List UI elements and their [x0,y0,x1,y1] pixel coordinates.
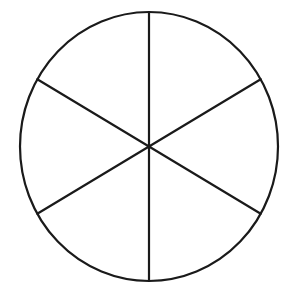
center-point [147,144,151,148]
diagram-canvas: Circle divided into six equal sectors A … [0,0,290,296]
circle-six-sectors-figure [0,0,290,296]
